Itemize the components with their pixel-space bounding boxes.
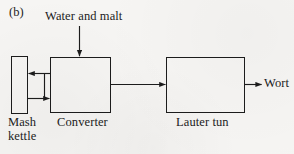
node-label-mash-kettle-line1: Mash <box>8 115 54 129</box>
node-label-lauter-tun: Lauter tun <box>176 115 229 129</box>
node-label-mash-kettle-line2: kettle <box>8 129 54 143</box>
node-lauter-tun <box>167 58 245 113</box>
process-flow-figure: (b) Water and malt Mash kettle Converter… <box>0 0 294 154</box>
panel-label: (b) <box>9 5 24 19</box>
node-label-mash-kettle: Mash kettle <box>8 115 54 143</box>
node-label-converter: Converter <box>57 115 108 129</box>
node-mash-kettle <box>12 57 28 114</box>
node-converter <box>51 58 111 113</box>
stream-label-water-and-malt: Water and malt <box>45 9 122 23</box>
stream-label-wort: Wort <box>264 76 289 90</box>
